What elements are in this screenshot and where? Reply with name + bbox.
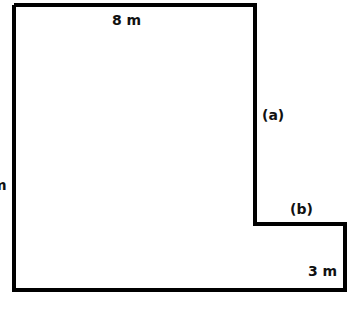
label-a: (a) (262, 107, 284, 123)
l-shape-diagram: 8 m (a) (b) 3 m m (0, 0, 350, 328)
shape-outline (14, 5, 345, 290)
label-3m: 3 m (308, 263, 337, 279)
label-top-8m: 8 m (112, 12, 141, 28)
label-left-partial: m (0, 177, 7, 193)
label-b: (b) (290, 201, 313, 217)
